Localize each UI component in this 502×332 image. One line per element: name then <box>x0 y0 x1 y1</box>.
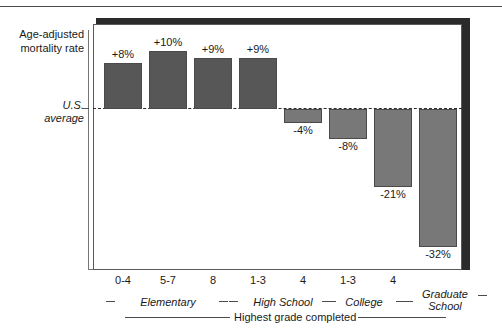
bar-highschool-4 <box>284 109 322 123</box>
bar-value-elementary-5-7: +10% <box>143 36 193 48</box>
bar-graduate-school <box>419 109 457 247</box>
group-dash-left-college <box>322 301 331 302</box>
y-axis-label: Age-adjusted mortality rate <box>6 27 84 55</box>
x-tick-label-2: 8 <box>188 274 238 286</box>
bar-highschool-1-3 <box>239 58 277 109</box>
y-axis-line <box>88 30 89 269</box>
group-dash-left-graduate-school <box>404 301 413 302</box>
bar-elementary-5-7 <box>149 51 187 109</box>
x-tick-label-1: 5-7 <box>143 274 193 286</box>
mortality-rate-bar-chart: Age-adjusted mortality rate U.S. average… <box>0 0 502 332</box>
group-label-elementary: Elementary <box>118 296 218 308</box>
bar-value-college-4: -21% <box>368 188 418 200</box>
group-label-graduate-school-line1: Graduate <box>414 288 476 300</box>
bar-value-highschool-1-3: +9% <box>233 43 283 55</box>
us-average-label: U.S. average <box>6 99 84 125</box>
x-tick-label-3: 1-3 <box>233 274 283 286</box>
bar-value-college-1-3: -8% <box>323 140 373 152</box>
x-axis-caption: Highest grade completed <box>234 311 356 323</box>
bar-elementary-8 <box>194 58 232 109</box>
plot-frame-shadow-right <box>462 18 470 270</box>
figure-top-rule <box>0 6 502 7</box>
x-caption-rule-right <box>358 317 446 318</box>
x-tick-label-5: 1-3 <box>323 274 373 286</box>
group-label-graduate-school-line2: School <box>414 300 476 312</box>
group-dash-right-elementary <box>219 301 228 302</box>
x-caption-rule-left <box>125 317 230 318</box>
group-label-graduate-school: Graduate School <box>414 288 476 312</box>
bar-college-4 <box>374 109 412 187</box>
bar-college-1-3 <box>329 109 367 139</box>
group-dash-left-high-school <box>229 301 238 302</box>
bar-value-highschool-4: -4% <box>278 124 328 136</box>
bar-value-graduate-school: -32% <box>413 248 463 260</box>
us-average-label-line2: average <box>6 112 84 125</box>
us-average-label-line1: U.S. <box>6 99 84 112</box>
y-axis-label-line2: mortality rate <box>6 41 84 55</box>
group-label-college: College <box>333 296 395 308</box>
x-tick-label-6: 4 <box>368 274 418 286</box>
y-axis-label-line1: Age-adjusted <box>6 27 84 41</box>
zero-tick-mark <box>82 108 89 109</box>
group-dash-right-graduate-school <box>478 295 487 296</box>
x-tick-label-0: 0-4 <box>98 274 148 286</box>
group-dash-left-elementary <box>106 301 115 302</box>
bar-elementary-0-4 <box>104 63 142 109</box>
x-tick-label-4: 4 <box>278 274 328 286</box>
bar-value-elementary-0-4: +8% <box>98 48 148 60</box>
bar-value-elementary-8: +9% <box>188 43 238 55</box>
group-label-high-school: High School <box>240 296 326 308</box>
